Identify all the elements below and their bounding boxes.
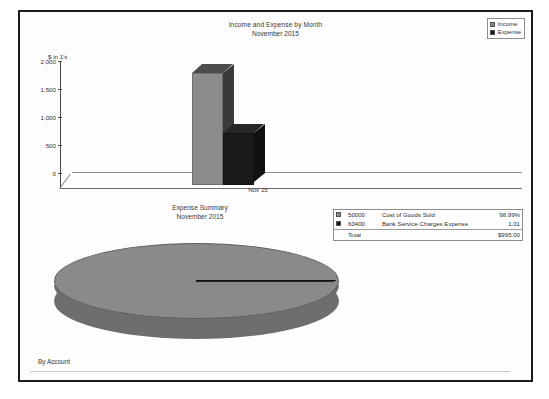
bar-expense-front <box>223 133 254 185</box>
y-tick-label-1000: 1,000 <box>26 114 56 121</box>
chart-floor-front-edge <box>60 188 522 189</box>
y-tick-label-2000: 2,000 <box>26 58 56 65</box>
bar-expense <box>223 124 265 184</box>
x-tick-label-nov15: Nov 15 <box>238 186 278 193</box>
total-swatch-spacer <box>334 230 346 240</box>
legend-item-expense: Expense <box>490 28 521 36</box>
legend-swatch-expense <box>490 30 495 35</box>
row-name-60400: Bank Service Charges Expense <box>380 220 480 230</box>
table-row: 60400 Bank Service Charges Expense 1.01 <box>334 220 522 230</box>
bar-chart-subtitle: November 2015 <box>20 29 531 38</box>
bar-expense-side <box>254 124 265 182</box>
row-value-60400: 1.01 <box>480 220 522 230</box>
total-name-spacer <box>380 230 480 240</box>
expense-summary-pie-chart: Expense Summary November 2015 50000 Cost… <box>20 195 531 380</box>
bar-income-front <box>192 73 223 185</box>
row-account-50000: 50000 <box>346 210 380 220</box>
total-value: $995.00 <box>480 230 522 240</box>
legend-item-income: Income <box>490 20 521 28</box>
expense-summary-table: 50000 Cost of Goods Sold 98.99% 60400 Ba… <box>333 209 523 241</box>
report-page: Income and Expense by Month November 201… <box>18 10 533 382</box>
legend-label-income: Income <box>498 20 518 28</box>
income-expense-bar-chart: Income and Expense by Month November 201… <box>20 12 531 195</box>
row-value-50000: 98.99% <box>480 210 522 220</box>
pie-chart-title: Expense Summary <box>80 203 320 212</box>
y-tick-label-500: 500 <box>26 142 56 149</box>
row-name-50000: Cost of Goods Sold <box>380 210 480 220</box>
total-label: Total <box>346 230 380 240</box>
pie-chart-subtitle: November 2015 <box>80 212 320 221</box>
table-row: 50000 Cost of Goods Sold 98.99% <box>334 210 522 220</box>
bar-chart-title: Income and Expense by Month <box>20 20 531 29</box>
y-tick-label-1500: 1,500 <box>26 86 56 93</box>
pie-slice-bank-service-charges-edge <box>196 281 334 282</box>
legend-label-expense: Expense <box>498 28 521 36</box>
row-account-60400: 60400 <box>346 220 380 230</box>
chart-floor <box>60 172 522 189</box>
row-swatch-50000 <box>334 210 346 220</box>
table-total-row: Total $995.00 <box>334 230 522 240</box>
pie-footer-label: By Account <box>38 358 70 365</box>
pie-footer-divider <box>30 371 510 372</box>
bar-chart-legend: Income Expense <box>487 18 525 39</box>
pie-graphic <box>48 237 348 352</box>
chart-floor-back-edge <box>72 172 522 173</box>
y-tick-label-0: 0 <box>26 170 56 177</box>
legend-swatch-income <box>490 22 495 27</box>
row-swatch-60400 <box>334 220 346 230</box>
y-axis-line <box>60 61 61 189</box>
